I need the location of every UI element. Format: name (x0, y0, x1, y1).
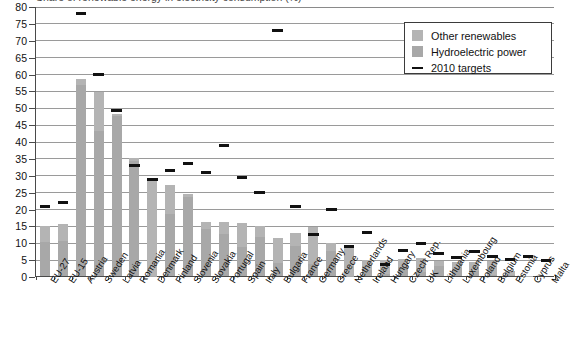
bar-segment-other-renewables (219, 222, 229, 234)
bar-segment-other-renewables (129, 158, 139, 161)
y-tick-label: 5 (0, 255, 27, 265)
target-marker-netherlands (344, 245, 354, 248)
bar-sweden (94, 92, 104, 276)
legend-label-2010-targets: 2010 targets (431, 62, 491, 74)
target-marker-bulgaria (272, 29, 282, 32)
bar-segment-other-renewables (112, 114, 122, 116)
target-marker-uk (416, 242, 426, 245)
chart-legend: Other renewables Hydroelectric power 201… (404, 22, 552, 74)
bar-segment-other-renewables (237, 223, 247, 248)
x-axis-labels: EU-27EU-15AustriaSwedenLatviaRomaniaDenm… (35, 279, 554, 338)
bar-segment-other-renewables (94, 92, 104, 131)
y-tick-mark (29, 277, 35, 278)
bar-segment-other-renewables (434, 261, 444, 266)
legend-item-other-renewables: Other renewables (412, 28, 544, 43)
bar-austria (76, 79, 86, 276)
y-tick-label: 20 (0, 205, 27, 215)
target-marker-portugal (219, 144, 229, 147)
target-marker-italy (254, 191, 264, 194)
y-tick-label: 50 (0, 103, 27, 113)
target-marker-sweden (93, 73, 103, 76)
target-marker-eu-27 (40, 205, 50, 208)
target-marker-greece (326, 208, 336, 211)
chart-title: Share of renewable energy in electricity… (36, 0, 302, 3)
y-tick-label: 65 (0, 53, 27, 63)
target-marker-romania (129, 164, 139, 167)
bar-segment-other-renewables (40, 226, 50, 243)
y-tick-label: 15 (0, 221, 27, 231)
legend-label-hydroelectric-power: Hydroelectric power (431, 46, 526, 58)
target-marker-france (290, 205, 300, 208)
legend-item-hydroelectric-power: Hydroelectric power (412, 44, 544, 59)
bar-eu-27 (40, 226, 50, 276)
y-tick-label: 60 (0, 70, 27, 80)
y-tick-label: 40 (0, 137, 27, 147)
target-marker-slovakia (201, 171, 211, 174)
y-tick-label: 35 (0, 154, 27, 164)
bar-segment-other-renewables (255, 226, 265, 237)
target-marker-eu-15 (58, 201, 68, 204)
target-marker-latvia (111, 109, 121, 112)
target-marker-finland (165, 169, 175, 172)
bar-segment-other-renewables (165, 185, 175, 213)
bar-segment-hydroelectric (76, 85, 86, 276)
bar-segment-other-renewables (76, 79, 86, 85)
y-tick-label: 0 (0, 272, 27, 282)
target-marker-spain (237, 176, 247, 179)
bar-segment-hydroelectric (40, 242, 50, 276)
y-tick-label: 25 (0, 188, 27, 198)
bar-segment-other-renewables (273, 238, 283, 263)
y-tick-label: 75 (0, 19, 27, 29)
bar-segment-other-renewables (183, 194, 193, 196)
y-tick-label: 45 (0, 120, 27, 130)
target-marker-slovenia (183, 162, 193, 165)
legend-label-other-renewables: Other renewables (431, 30, 516, 42)
target-marker-denmark (147, 178, 157, 181)
target-marker-germany (308, 233, 318, 236)
y-tick-label: 55 (0, 86, 27, 96)
legend-swatch-hydroelectric-power (412, 46, 423, 57)
bar-segment-other-renewables (201, 222, 211, 229)
y-tick-label: 30 (0, 171, 27, 181)
legend-item-2010-targets: 2010 targets (412, 60, 544, 75)
target-marker-ireland (362, 231, 372, 234)
bar-segment-other-renewables (58, 224, 68, 240)
y-tick-label: 80 (0, 2, 27, 12)
y-tick-label: 70 (0, 36, 27, 46)
bar-segment-other-renewables (290, 233, 300, 245)
legend-swatch-other-renewables (412, 30, 423, 41)
target-marker-austria (76, 12, 86, 15)
legend-line-2010-targets (412, 67, 423, 69)
y-tick-label: 10 (0, 238, 27, 248)
